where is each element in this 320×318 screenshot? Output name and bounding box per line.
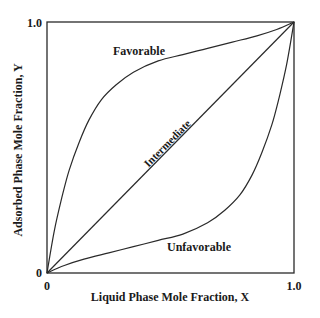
x-axis-label: Liquid Phase Mole Fraction, X [91, 290, 250, 304]
unfavorable-label: Unfavorable [167, 240, 232, 254]
intermediate-label: Intermediate [141, 117, 192, 169]
x-tick-max: 1.0 [287, 279, 302, 293]
isotherm-chart: 1.0 0 0 1.0 Liquid Phase Mole Fraction, … [0, 0, 320, 318]
x-tick-min: 0 [44, 279, 50, 293]
y-tick-min: 0 [36, 266, 42, 280]
y-tick-max: 1.0 [27, 16, 42, 30]
favorable-label: Favorable [113, 44, 166, 58]
y-axis-label: Adsorbed Phase Mole Fraction, Y [11, 63, 25, 237]
